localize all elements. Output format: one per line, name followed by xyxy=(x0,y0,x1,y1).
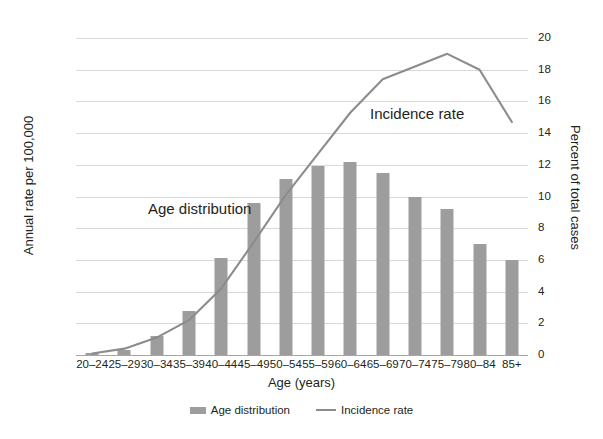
legend-label-incidence-rate: Incidence rate xyxy=(341,404,413,416)
y-tick-label-right: 14 xyxy=(538,127,578,139)
x-tick-label: 45–49 xyxy=(237,358,269,370)
line-series-incidence-rate xyxy=(76,38,528,355)
annotation-incidence-rate: Incidence rate xyxy=(370,105,464,122)
x-tick-label: 55–59 xyxy=(302,358,334,370)
annotation-age-distribution: Age distribution xyxy=(148,200,251,217)
y-tick-label-right: 8 xyxy=(538,222,578,234)
chart-legend: Age distribution Incidence rate xyxy=(0,404,603,416)
gridline xyxy=(76,355,528,356)
y-tick-label-right: 6 xyxy=(538,254,578,266)
x-tick-label: 65–69 xyxy=(367,358,399,370)
y-tick-label-right: 0 xyxy=(538,349,578,361)
x-tick-label: 50–54 xyxy=(270,358,302,370)
y-axis-label-left: Annual rate per 100,000 xyxy=(21,66,36,306)
bar-swatch-icon xyxy=(190,407,206,414)
x-tick-label: 30–34 xyxy=(141,358,173,370)
y-tick-label-right: 16 xyxy=(538,95,578,107)
x-axis-label: Age (years) xyxy=(0,375,603,390)
y-tick-label-right: 18 xyxy=(538,64,578,76)
x-tick-label: 80–84 xyxy=(463,358,495,370)
y-tick-label-right: 20 xyxy=(538,32,578,44)
plot-area: 050100150200250300350400450500 024681012… xyxy=(76,38,528,355)
x-tick-label: 70–74 xyxy=(399,358,431,370)
x-tick-label: 20–24 xyxy=(76,358,108,370)
y-tick-label-right: 2 xyxy=(538,317,578,329)
x-tick-label: 25–29 xyxy=(108,358,140,370)
x-tick-label: 85+ xyxy=(496,358,528,370)
legend-item-age-distribution: Age distribution xyxy=(190,404,290,416)
y-tick-label-right: 10 xyxy=(538,191,578,203)
x-tick-label: 60–64 xyxy=(334,358,366,370)
x-tick-label: 75–79 xyxy=(431,358,463,370)
x-tick-label: 35–39 xyxy=(173,358,205,370)
chart-container: Annual rate per 100,000 Percent of total… xyxy=(0,0,603,439)
line-swatch-icon xyxy=(316,409,336,411)
y-tick-label-right: 4 xyxy=(538,286,578,298)
y-tick-label-right: 12 xyxy=(538,159,578,171)
x-tick-label: 40–44 xyxy=(205,358,237,370)
x-axis-ticks: 20–2425–2930–3435–3940–4445–4950–5455–59… xyxy=(76,358,528,374)
legend-item-incidence-rate: Incidence rate xyxy=(316,404,413,416)
legend-label-age-distribution: Age distribution xyxy=(211,404,290,416)
